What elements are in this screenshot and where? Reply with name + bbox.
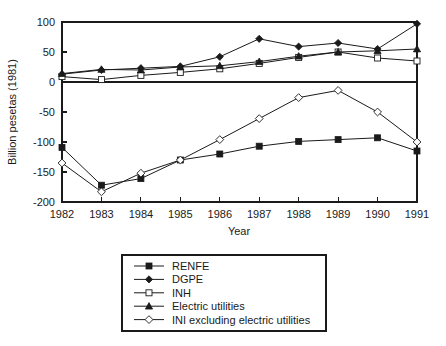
y-tick-label: 0 bbox=[49, 76, 55, 88]
legend-label: DGPE bbox=[172, 273, 203, 285]
x-tick-label: 1982 bbox=[50, 208, 74, 220]
data-point bbox=[375, 55, 381, 61]
y-tick-marks bbox=[62, 22, 67, 202]
data-point bbox=[375, 135, 381, 141]
data-point bbox=[98, 188, 106, 196]
x-tick-label: 1984 bbox=[129, 208, 153, 220]
data-point bbox=[295, 43, 302, 50]
y-tick-label: -50 bbox=[39, 106, 55, 118]
data-point bbox=[295, 94, 303, 102]
plot-frame bbox=[62, 22, 417, 202]
chart-svg: Billion pesetas (1981) 100500-50-100-150… bbox=[0, 0, 446, 346]
data-point bbox=[216, 53, 223, 60]
data-point bbox=[59, 144, 65, 150]
data-point bbox=[256, 143, 262, 149]
x-tick-label: 1986 bbox=[208, 208, 232, 220]
y-tick-labels: 100500-50-100-150-200 bbox=[33, 16, 55, 208]
series-line bbox=[62, 24, 417, 74]
data-point bbox=[256, 35, 263, 42]
series-ini-excluding-electric-utilities bbox=[58, 87, 421, 196]
data-point bbox=[335, 137, 341, 143]
y-tick-label: 50 bbox=[43, 46, 55, 58]
data-point bbox=[374, 108, 382, 116]
series-line bbox=[62, 49, 417, 74]
data-point bbox=[217, 151, 223, 157]
series-renfe bbox=[59, 135, 420, 188]
x-tick-label: 1989 bbox=[326, 208, 350, 220]
data-point bbox=[414, 148, 420, 154]
data-point bbox=[335, 39, 342, 46]
legend-marker-icon bbox=[146, 290, 152, 296]
data-point bbox=[98, 77, 104, 83]
legend-marker-icon bbox=[146, 263, 152, 269]
data-point bbox=[414, 58, 420, 64]
x-tick-marks bbox=[62, 197, 417, 202]
data-point bbox=[255, 115, 263, 123]
y-tick-label: -150 bbox=[33, 166, 55, 178]
data-point bbox=[138, 72, 144, 78]
data-point bbox=[413, 138, 421, 146]
data-point bbox=[413, 20, 420, 27]
chart-figure: Billion pesetas (1981) 100500-50-100-150… bbox=[0, 0, 446, 346]
series-electric-utilities bbox=[58, 45, 420, 76]
series-line bbox=[62, 138, 417, 185]
data-point bbox=[58, 159, 66, 167]
x-tick-label: 1987 bbox=[247, 208, 271, 220]
series-group bbox=[58, 20, 421, 196]
legend-label: Electric utilities bbox=[172, 300, 245, 312]
data-point bbox=[216, 136, 224, 144]
x-tick-label: 1988 bbox=[286, 208, 310, 220]
data-point bbox=[296, 138, 302, 144]
series-inh bbox=[59, 49, 420, 83]
legend-label: RENFE bbox=[172, 260, 209, 272]
data-point bbox=[334, 87, 342, 95]
series-line bbox=[62, 90, 417, 191]
y-tick-label: -100 bbox=[33, 136, 55, 148]
y-tick-label: 100 bbox=[37, 16, 55, 28]
y-tick-label: -200 bbox=[33, 196, 55, 208]
legend-label: INI excluding electric utilities bbox=[172, 314, 311, 326]
x-tick-label: 1985 bbox=[168, 208, 192, 220]
y-axis-title: Billion pesetas (1981) bbox=[6, 59, 18, 165]
x-tick-labels: 1982198319841985198619871988198919901991 bbox=[50, 208, 429, 220]
series-line bbox=[62, 52, 417, 80]
x-axis-title: Year bbox=[228, 225, 251, 237]
x-tick-label: 1991 bbox=[405, 208, 429, 220]
legend-label: INH bbox=[172, 287, 191, 299]
x-tick-label: 1990 bbox=[365, 208, 389, 220]
x-tick-label: 1983 bbox=[89, 208, 113, 220]
data-point bbox=[177, 69, 183, 75]
